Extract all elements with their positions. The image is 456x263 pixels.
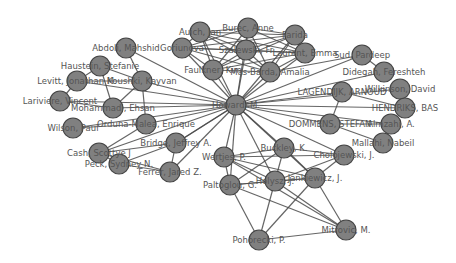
label-layer: Howard, M.Auich, JanBurec, AnneFaridaGor…	[23, 23, 438, 245]
node-label: Szalewski, Fr	[219, 45, 274, 55]
node-label: Mohammadi, Ehsan	[71, 103, 155, 113]
node-label: Sud, Pardeep	[334, 50, 390, 60]
node-label: Pohorecki, P.	[232, 235, 285, 245]
node-label: Didegah, Fereshteh	[343, 67, 426, 77]
node-label: HENDRIKS, BAS	[372, 103, 439, 113]
node-label: Orduna-Malea, Enrique	[97, 119, 195, 129]
collaboration-network-graph: Howard, M.Auich, JanBurec, AnneFaridaGor…	[0, 0, 456, 263]
graph-edge	[230, 185, 346, 230]
node-label: Goriunova	[160, 43, 204, 53]
node-label: Paltoglou, G.	[203, 180, 257, 190]
node-label: Abdoli, Mahshid	[92, 43, 159, 53]
node-label: Levitt, Jonathan M.	[37, 76, 117, 86]
node-label: Auich, Jan	[179, 27, 221, 37]
node-label: Farida	[282, 30, 308, 40]
node-label: Haustein, Stefanie	[61, 61, 139, 71]
node-label: Cash, Scottye J	[67, 148, 131, 158]
node-label: Howard, M.	[212, 100, 260, 110]
node-label: Koushki, Kayvan	[107, 76, 177, 86]
node-label: Jankiewicz, J.	[287, 173, 343, 183]
node-label: Mitrovic, M.	[321, 225, 370, 235]
node-label: Buckley, K.	[260, 143, 307, 153]
node-label: Wilson, Paul	[47, 123, 98, 133]
node-label: Burec, Anne	[222, 23, 274, 33]
node-label: Mallahi, Nabeil	[352, 138, 415, 148]
node-label: Ferrer, Jared Z.	[138, 167, 201, 177]
graph-edge	[275, 181, 346, 230]
node-label: DOMMENS, STEFAN	[289, 119, 372, 129]
node-label: Wilkinson, David	[365, 84, 436, 94]
node-label: Bridge, Jeffrey A.	[140, 138, 211, 148]
node-label: Cholojewski, J.	[314, 150, 375, 160]
node-label: Laurent, Emma	[272, 48, 337, 58]
node-label: Wertjes, P.	[202, 152, 246, 162]
node-label: Mas-Barda, Amalia	[230, 67, 309, 77]
node-label: Almzahi, A.	[367, 119, 415, 129]
